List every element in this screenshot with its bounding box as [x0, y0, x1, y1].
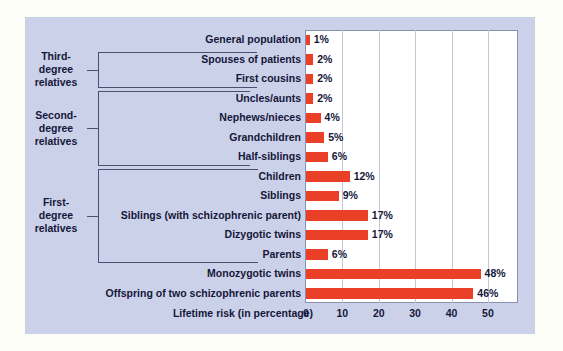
bracket-label-line: Second- — [27, 109, 85, 122]
bar-value-label: 2% — [317, 50, 332, 70]
x-tick-label: 20 — [373, 307, 385, 319]
bracket-label-line: relatives — [27, 135, 85, 148]
bar-value-label: 1% — [314, 30, 329, 50]
x-tick-label: 10 — [337, 307, 349, 319]
x-tick-label: 30 — [409, 307, 421, 319]
category-label: Siblings — [260, 186, 301, 206]
category-label: Children — [258, 167, 301, 187]
category-label: General population — [205, 30, 301, 50]
bracket-label-second-degree: Second-degreerelatives — [27, 109, 85, 148]
bar-value-label: 4% — [325, 108, 340, 128]
bar — [306, 113, 321, 124]
bar-value-label: 48% — [485, 264, 506, 284]
category-label: Monozygotic twins — [207, 264, 301, 284]
bar — [306, 93, 313, 104]
bar — [306, 210, 368, 221]
x-axis: 01020304050 — [305, 305, 518, 327]
bar-row: Monozygotic twins48% — [25, 264, 518, 284]
bar-value-label: 46% — [477, 284, 498, 304]
bracket-label-line: Third- — [27, 50, 85, 63]
bar — [306, 288, 473, 299]
bar-value-label: 6% — [332, 245, 347, 265]
bar — [306, 74, 313, 85]
chart-figure: General population1%Spouses of patients2… — [25, 17, 535, 334]
bracket-second-degree — [98, 91, 250, 166]
axis-title: Lifetime risk (in percentage) — [173, 307, 313, 319]
bar-value-label: 2% — [317, 69, 332, 89]
bracket-first-degree — [98, 169, 258, 264]
bracket-label-line: First- — [27, 196, 85, 209]
bracket-label-line: degree — [27, 209, 85, 222]
bracket-label-line: relatives — [27, 76, 85, 89]
category-label: Offspring of two schizophrenic parents — [106, 284, 301, 304]
bracket-third-degree — [98, 52, 257, 88]
bar — [306, 171, 350, 182]
bar — [306, 230, 368, 241]
bar — [306, 191, 339, 202]
bracket-tick-second-degree — [87, 128, 98, 129]
bracket-label-line: degree — [27, 63, 85, 76]
bracket-label-line: relatives — [27, 222, 85, 235]
bracket-tick-third-degree — [87, 70, 98, 71]
bar — [306, 132, 324, 143]
bar-value-label: 17% — [372, 206, 393, 226]
bar-value-label: 5% — [328, 128, 343, 148]
bar-row: General population1% — [25, 30, 518, 50]
bar — [306, 269, 481, 280]
bracket-label-first-degree: First-degreerelatives — [27, 196, 85, 235]
bracket-label-line: degree — [27, 122, 85, 135]
bar — [306, 152, 328, 163]
bar-value-label: 9% — [343, 186, 358, 206]
bracket-tick-first-degree — [87, 216, 98, 217]
bar-row: Offspring of two schizophrenic parents46… — [25, 284, 518, 304]
bar-value-label: 17% — [372, 225, 393, 245]
x-tick-label: 50 — [482, 307, 494, 319]
bar — [306, 35, 310, 46]
x-tick-label: 40 — [446, 307, 458, 319]
bracket-label-third-degree: Third-degreerelatives — [27, 50, 85, 89]
bar-value-label: 2% — [317, 89, 332, 109]
bar — [306, 249, 328, 260]
bar — [306, 54, 313, 65]
bar-value-label: 12% — [354, 167, 375, 187]
bar-value-label: 6% — [332, 147, 347, 167]
category-label: Parents — [262, 245, 301, 265]
